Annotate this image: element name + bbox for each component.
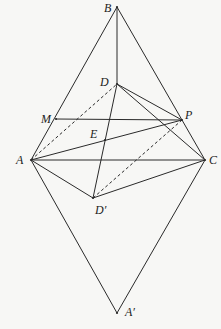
point-dprime [92,197,94,199]
segments-group [31,7,205,313]
segment-b-c [117,7,205,160]
segment-d-p [117,84,182,120]
segment-a-dprime [31,160,93,198]
geometry-diagram: BDMPEACD′A′ [0,0,221,329]
segment-d-c [117,84,205,160]
point-e [104,139,106,141]
point-c [204,159,206,161]
label-d: D [99,75,109,89]
segment-a-aprime [31,160,117,313]
segment-c-aprime [117,160,205,313]
label-aprime: A′ [124,305,135,319]
segment-m-p [56,119,182,120]
label-b: B [104,1,112,15]
segment-dprime-c [93,160,205,198]
label-dprime: D′ [94,203,107,217]
label-m: M [40,112,52,126]
label-a: A [15,153,24,167]
point-d [116,83,118,85]
label-e: E [89,127,98,141]
label-c: C [209,153,218,167]
point-a [30,159,32,161]
label-p: P [184,108,193,122]
point-b [116,6,118,8]
point-m [55,118,57,120]
point-aprime [116,312,118,314]
point-p [181,119,183,121]
